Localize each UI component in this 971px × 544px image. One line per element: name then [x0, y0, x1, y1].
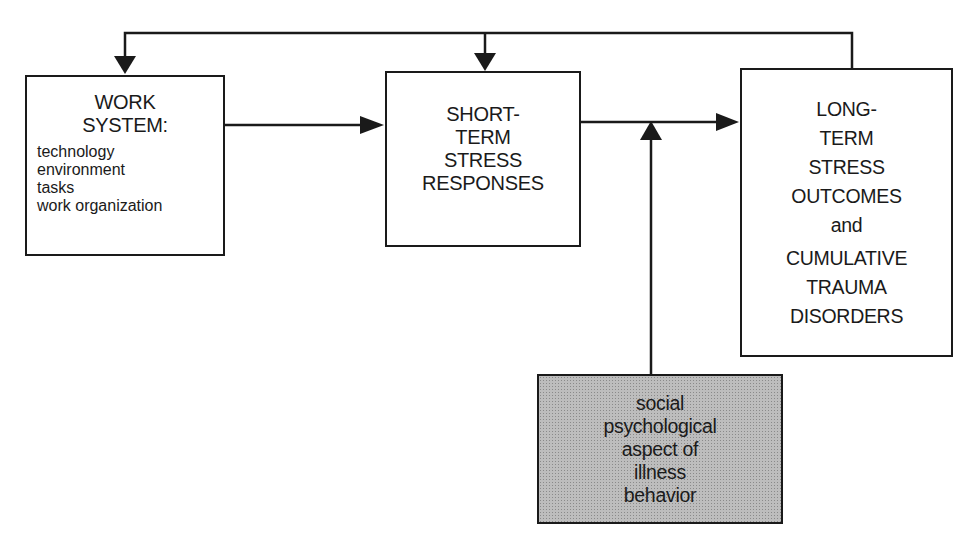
title-line: DISORDERS — [786, 302, 907, 331]
short-term-stress-box: SHORT- TERM STRESS RESPONSES — [385, 71, 581, 247]
work-system-title: WORK SYSTEM: — [82, 91, 168, 137]
title-line: TRAUMA — [786, 273, 907, 302]
title-line: behavior — [603, 484, 716, 507]
title-line: WORK — [82, 91, 168, 114]
arrowhead-right-long — [716, 113, 739, 131]
title-line: RESPONSES — [422, 172, 544, 195]
item-technology: technology — [37, 143, 162, 161]
title-line: and — [786, 211, 907, 240]
arrowhead-right-short — [360, 116, 384, 134]
title-line: TERM — [786, 124, 907, 153]
arrowhead-down-short — [474, 53, 496, 71]
title-line: aspect of — [603, 438, 716, 461]
title-line: TERM — [422, 126, 544, 149]
title-line: OUTCOMES — [786, 182, 907, 211]
title-line: social — [603, 392, 716, 415]
long-term-outcomes-box: LONG- TERM STRESS OUTCOMES and CUMULATIV… — [740, 68, 953, 357]
work-system-items: technology environment tasks work organi… — [37, 143, 162, 215]
arrowhead-down-work — [114, 56, 136, 74]
arrowhead-up-social — [640, 121, 662, 140]
title-line: SHORT- — [422, 103, 544, 126]
title-line: SYSTEM: — [82, 114, 168, 137]
social-title: social psychological aspect of illness b… — [603, 392, 716, 507]
item-work-organization: work organization — [37, 197, 162, 215]
work-system-box: WORK SYSTEM: technology environment task… — [25, 75, 225, 256]
short-term-title: SHORT- TERM STRESS RESPONSES — [422, 103, 544, 195]
title-line: STRESS — [786, 153, 907, 182]
title-line: CUMULATIVE — [786, 244, 907, 273]
title-line: psychological — [603, 415, 716, 438]
title-line: LONG- — [786, 95, 907, 124]
social-psychological-box: social psychological aspect of illness b… — [537, 374, 783, 524]
item-tasks: tasks — [37, 179, 162, 197]
long-term-title: LONG- TERM STRESS OUTCOMES and CUMULATIV… — [786, 95, 907, 331]
title-line: illness — [603, 461, 716, 484]
item-environment: environment — [37, 161, 162, 179]
title-line: STRESS — [422, 149, 544, 172]
